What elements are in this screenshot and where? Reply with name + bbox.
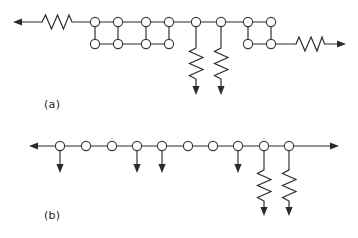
panel-label-b: (b)	[44, 209, 60, 222]
circuit-diagram	[0, 0, 358, 238]
node	[259, 141, 268, 150]
node	[90, 39, 99, 48]
node	[164, 17, 173, 26]
panel-a-graphics	[13, 15, 346, 95]
node	[216, 17, 225, 26]
panel-b-left-arrowhead	[29, 142, 38, 149]
node	[183, 141, 192, 150]
node	[132, 141, 141, 150]
node	[81, 141, 90, 150]
panel-a-left-terminal	[13, 18, 42, 25]
panel-a-shunt-branch-2	[215, 22, 229, 95]
node	[141, 39, 150, 48]
figure-root: (a) (b)	[0, 0, 358, 238]
node	[266, 17, 275, 26]
node	[90, 17, 99, 26]
node	[141, 17, 150, 26]
panel-b-branch-resistor-1	[258, 146, 272, 216]
node	[191, 17, 200, 26]
node	[113, 17, 122, 26]
node	[233, 141, 242, 150]
panel-b-right-arrowhead	[330, 142, 339, 149]
panel-a-shunt-branch-1	[190, 22, 204, 95]
panel-a-nodes-bottom	[90, 39, 275, 48]
node	[107, 141, 116, 150]
node	[157, 141, 166, 150]
node	[113, 39, 122, 48]
node	[55, 141, 64, 150]
panel-label-a: (a)	[44, 98, 60, 111]
panel-b-graphics	[29, 141, 339, 216]
node	[208, 141, 217, 150]
node	[284, 141, 293, 150]
node	[243, 39, 252, 48]
panel-a-right-terminal	[271, 37, 346, 51]
node	[266, 39, 275, 48]
node	[243, 17, 252, 26]
panel-b-branch-resistor-2	[283, 146, 297, 216]
panel-a-left-resistor	[42, 15, 95, 29]
node	[164, 39, 173, 48]
